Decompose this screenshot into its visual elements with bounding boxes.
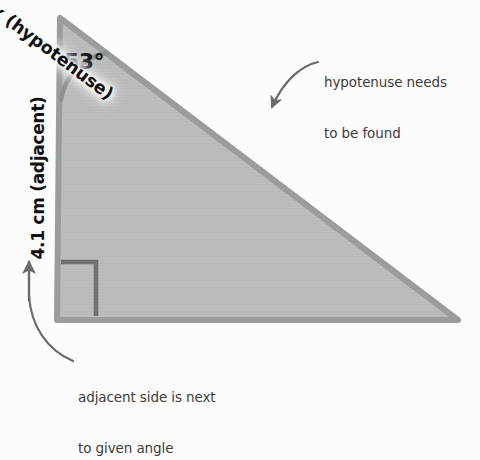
adjacent-annotation: adjacent side is next to given angle bbox=[78, 355, 216, 460]
hypotenuse-annotation-line1: hypotenuse needs bbox=[324, 74, 447, 91]
hypotenuse-arrow bbox=[272, 62, 318, 107]
adjacent-side-label: 4.1 cm (adjacent) bbox=[28, 78, 48, 278]
hypotenuse-annotation-line2: to be found bbox=[324, 125, 447, 142]
adjacent-annotation-line2: to given angle bbox=[78, 440, 216, 457]
hypotenuse-annotation: hypotenuse needs to be found bbox=[324, 40, 447, 176]
adjacent-annotation-line1: adjacent side is next bbox=[78, 389, 216, 406]
